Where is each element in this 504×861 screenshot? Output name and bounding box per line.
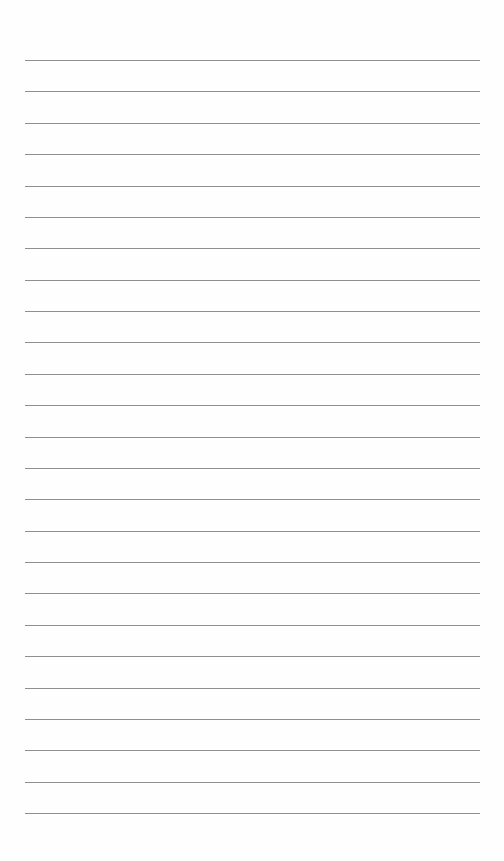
ruled-line (25, 154, 480, 155)
ruled-line (25, 468, 480, 469)
ruled-line (25, 248, 480, 249)
ruled-line (25, 688, 480, 689)
ruled-line (25, 719, 480, 720)
ruled-line (25, 60, 480, 61)
ruled-line (25, 405, 480, 406)
ruled-line (25, 625, 480, 626)
ruled-line (25, 311, 480, 312)
ruled-line (25, 123, 480, 124)
ruled-line (25, 374, 480, 375)
ruled-line (25, 531, 480, 532)
ruled-line (25, 280, 480, 281)
ruled-line (25, 91, 480, 92)
ruled-line (25, 499, 480, 500)
ruled-line (25, 593, 480, 594)
ruled-line (25, 186, 480, 187)
ruled-line (25, 782, 480, 783)
ruled-line (25, 562, 480, 563)
ruled-line (25, 437, 480, 438)
ruled-line (25, 656, 480, 657)
ruled-line (25, 217, 480, 218)
ruled-page (0, 0, 504, 861)
ruled-line (25, 750, 480, 751)
ruled-line (25, 342, 480, 343)
ruled-line (25, 813, 480, 814)
